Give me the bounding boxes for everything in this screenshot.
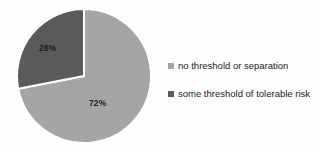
legend-item-some-threshold-of-tolerable-risk[interactable]: some threshold of tolerable risk (168, 88, 318, 100)
pie-chart-plot (17, 9, 151, 143)
legend-item-label: some threshold of tolerable risk (178, 88, 310, 100)
legend-item-no-threshold-or-separation[interactable]: no threshold or separation (168, 60, 318, 72)
pie-chart-figure: 28% 72% no threshold or separation some … (0, 0, 323, 155)
legend-swatch-icon (168, 91, 174, 97)
chart-legend: no threshold or separation some threshol… (168, 60, 318, 115)
pie-svg (17, 9, 151, 143)
legend-item-label: no threshold or separation (178, 60, 288, 72)
pie-slice-label-no-threshold-or-separation: 72% (89, 98, 106, 108)
pie-slice-label-some-threshold-of-tolerable-risk: 28% (39, 43, 56, 53)
legend-swatch-icon (168, 63, 174, 69)
